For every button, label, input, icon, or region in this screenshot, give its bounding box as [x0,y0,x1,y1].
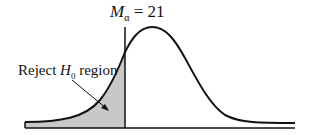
critical-value-label: Mα = 21 [110,2,165,23]
rejection-region-label: Reject H0 region [18,62,118,81]
arrow-line [72,80,106,108]
